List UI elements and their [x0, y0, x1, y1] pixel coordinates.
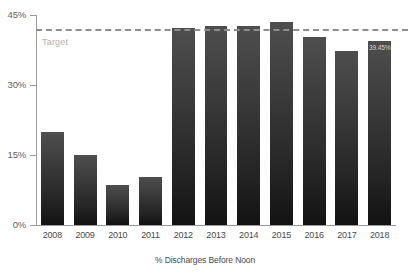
x-label-2015: 2015 [265, 230, 298, 240]
bar-value-label-2018: 39.45% [368, 44, 391, 51]
x-label-2008: 2008 [36, 230, 69, 240]
bar-2011[interactable] [139, 177, 162, 225]
target-line [36, 29, 408, 31]
bar-2009[interactable] [74, 155, 97, 225]
bar-2014[interactable] [237, 26, 260, 225]
y-tick-label: 45% [0, 9, 26, 20]
target-label: Target [42, 37, 68, 47]
x-label-2018: 2018 [363, 230, 396, 240]
x-label-2016: 2016 [298, 230, 331, 240]
x-label-2010: 2010 [101, 230, 134, 240]
y-tick-0 [30, 225, 37, 226]
x-axis-line [36, 225, 396, 226]
x-label-2014: 2014 [232, 230, 265, 240]
bar-2016[interactable] [303, 37, 326, 225]
bar-2018[interactable]: 39.45% [368, 41, 391, 225]
bar-chart: 0%15%30%45% 39.45% Target 20082009201020… [0, 0, 410, 280]
x-label-2017: 2017 [331, 230, 364, 240]
x-axis-labels: 2008200920102011201220132014201520162017… [36, 230, 396, 246]
x-label-2012: 2012 [167, 230, 200, 240]
x-label-2013: 2013 [200, 230, 233, 240]
bar-2013[interactable] [205, 26, 228, 225]
bar-series: 39.45% [36, 15, 396, 225]
y-tick-label: 15% [0, 149, 26, 160]
x-label-2011: 2011 [134, 230, 167, 240]
bar-2012[interactable] [172, 28, 195, 225]
y-tick-label: 30% [0, 79, 26, 90]
bar-2017[interactable] [335, 51, 358, 225]
x-axis-title: % Discharges Before Noon [0, 255, 410, 265]
bar-2008[interactable] [41, 132, 64, 225]
y-tick-label: 0% [0, 219, 26, 230]
bar-2010[interactable] [106, 185, 129, 225]
bar-2015[interactable] [270, 22, 293, 225]
x-label-2009: 2009 [69, 230, 102, 240]
